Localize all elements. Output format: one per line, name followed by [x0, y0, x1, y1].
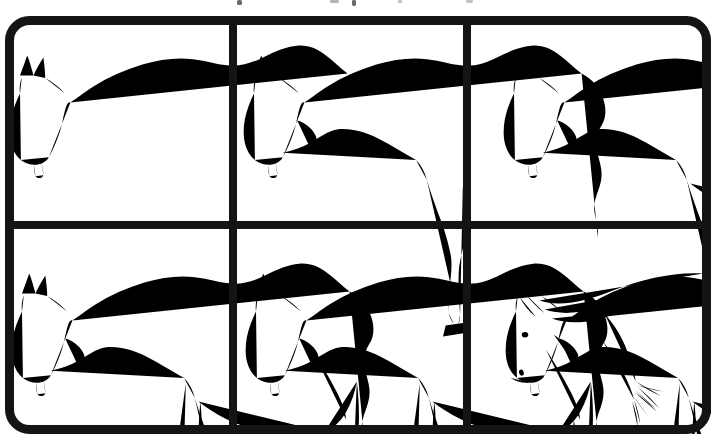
tutorial-sheet: .ink path, .ink ellipse { fill: none; st…: [5, 16, 711, 434]
drawing-tutorial-image: .ink path, .ink ellipse { fill: none; st…: [0, 0, 718, 448]
cropped-caption-artifacts: [0, 0, 718, 9]
